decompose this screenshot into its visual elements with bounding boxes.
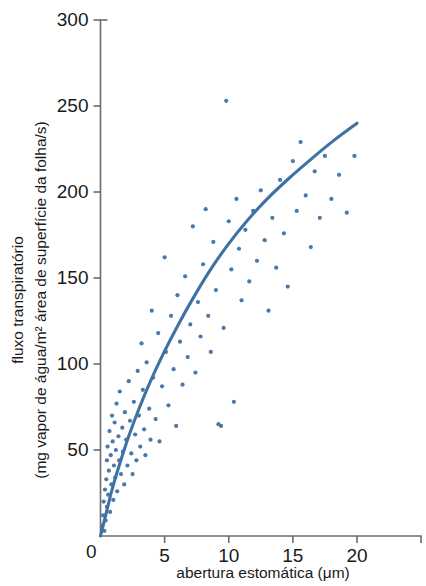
data-point bbox=[114, 448, 118, 452]
data-point bbox=[337, 173, 341, 177]
data-point bbox=[323, 154, 327, 158]
data-point bbox=[156, 331, 160, 335]
data-point bbox=[180, 383, 184, 387]
data-point bbox=[113, 420, 117, 424]
y-tick-label: 150 bbox=[57, 267, 89, 288]
fit-curve bbox=[101, 123, 358, 536]
data-point bbox=[123, 410, 127, 414]
data-point bbox=[112, 463, 116, 467]
data-point bbox=[103, 487, 107, 491]
data-point bbox=[109, 453, 113, 457]
data-point bbox=[133, 432, 137, 436]
data-point bbox=[163, 255, 167, 259]
data-point bbox=[138, 444, 142, 448]
data-point bbox=[247, 279, 251, 283]
data-point bbox=[127, 379, 131, 383]
data-point bbox=[169, 314, 173, 318]
data-point bbox=[309, 245, 313, 249]
data-point bbox=[270, 216, 274, 220]
x-tick-label: 15 bbox=[282, 545, 303, 566]
data-point bbox=[154, 417, 158, 421]
data-point bbox=[139, 341, 143, 345]
y-tick-label: 250 bbox=[57, 95, 89, 116]
data-point bbox=[128, 419, 132, 423]
scatter-series bbox=[100, 99, 356, 533]
data-point bbox=[243, 228, 247, 232]
data-point bbox=[298, 140, 302, 144]
data-point bbox=[227, 219, 231, 223]
data-point bbox=[266, 309, 270, 313]
data-point bbox=[116, 434, 120, 438]
data-point bbox=[119, 472, 123, 476]
data-point bbox=[196, 300, 200, 304]
y-tick-label: 300 bbox=[57, 9, 89, 30]
data-point bbox=[206, 314, 210, 318]
data-point bbox=[107, 429, 111, 433]
transpiration-scatter-chart: 0501001502002503005101520 abertura estom… bbox=[0, 0, 426, 586]
data-point bbox=[186, 355, 190, 359]
data-point bbox=[345, 211, 349, 215]
data-point bbox=[219, 424, 223, 428]
data-point bbox=[286, 285, 290, 289]
data-point bbox=[143, 453, 147, 457]
y-axis-title-line1: fluxo transpiratório bbox=[9, 236, 26, 364]
data-point bbox=[274, 266, 278, 270]
data-point bbox=[107, 469, 111, 473]
x-tick-label: 10 bbox=[218, 545, 239, 566]
data-point bbox=[141, 388, 145, 392]
data-point bbox=[255, 259, 259, 263]
data-point bbox=[110, 414, 114, 418]
data-point bbox=[104, 477, 108, 481]
data-point bbox=[136, 369, 140, 373]
x-tick-label: 5 bbox=[159, 545, 170, 566]
data-point bbox=[157, 439, 161, 443]
data-point bbox=[209, 350, 213, 354]
data-point bbox=[105, 444, 109, 448]
data-point bbox=[148, 438, 152, 442]
data-point bbox=[150, 309, 154, 313]
data-point bbox=[214, 288, 218, 292]
data-point bbox=[318, 216, 322, 220]
data-point bbox=[201, 262, 205, 266]
data-point bbox=[166, 403, 170, 407]
data-point bbox=[125, 463, 129, 467]
y-tick-label: 100 bbox=[57, 353, 89, 374]
y-tick-label: 200 bbox=[57, 181, 89, 202]
data-point bbox=[111, 439, 115, 443]
data-point bbox=[178, 340, 182, 344]
data-point bbox=[222, 326, 226, 330]
data-point bbox=[175, 293, 179, 297]
data-point bbox=[142, 427, 146, 431]
data-point bbox=[132, 400, 136, 404]
data-point bbox=[282, 231, 286, 235]
data-point bbox=[278, 178, 282, 182]
data-point bbox=[115, 489, 119, 493]
y-tick-label: 50 bbox=[67, 439, 88, 460]
data-point bbox=[118, 389, 122, 393]
data-point bbox=[174, 424, 178, 428]
data-point bbox=[237, 247, 241, 251]
data-point bbox=[259, 188, 263, 192]
data-point bbox=[204, 207, 208, 211]
data-point bbox=[134, 458, 138, 462]
data-point bbox=[160, 384, 164, 388]
data-point bbox=[291, 159, 295, 163]
data-point bbox=[183, 274, 187, 278]
data-point bbox=[172, 367, 176, 371]
x-axis-title: abertura estomática (μm) bbox=[176, 564, 349, 581]
data-point bbox=[234, 197, 238, 201]
data-point bbox=[229, 267, 233, 271]
data-point bbox=[191, 224, 195, 228]
data-point bbox=[130, 472, 134, 476]
data-point bbox=[295, 209, 299, 213]
data-point bbox=[108, 510, 112, 514]
data-point bbox=[239, 298, 243, 302]
data-point bbox=[304, 193, 308, 197]
data-point bbox=[188, 322, 192, 326]
data-point bbox=[193, 371, 197, 375]
data-point bbox=[232, 400, 236, 404]
data-point bbox=[145, 360, 149, 364]
data-point bbox=[211, 240, 215, 244]
data-point bbox=[329, 197, 333, 201]
data-point bbox=[352, 154, 356, 158]
